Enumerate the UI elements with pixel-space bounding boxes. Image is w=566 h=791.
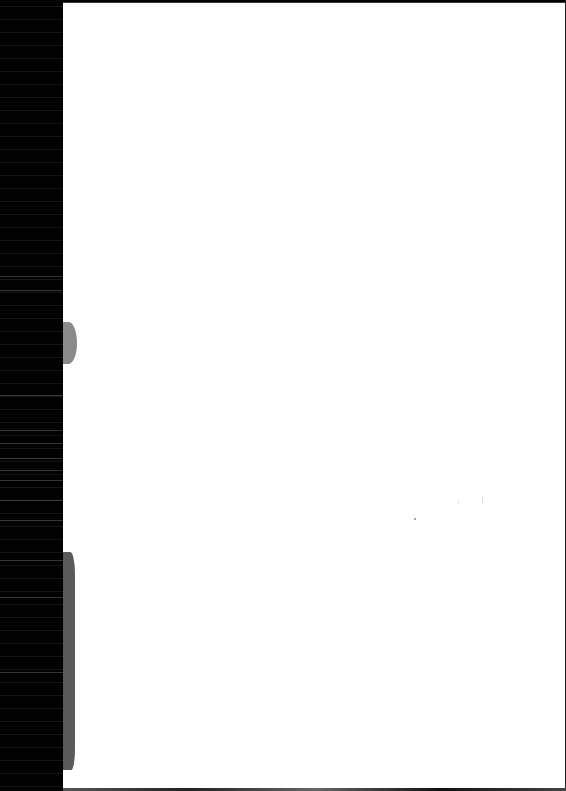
scan-smudge-strip [63,552,75,770]
scan-speck-faint [458,501,459,504]
scanned-page [0,0,566,791]
blank-page [63,2,565,789]
scan-speck-faint [482,497,483,503]
scan-left-margin [0,0,64,791]
scan-speck [414,518,416,520]
